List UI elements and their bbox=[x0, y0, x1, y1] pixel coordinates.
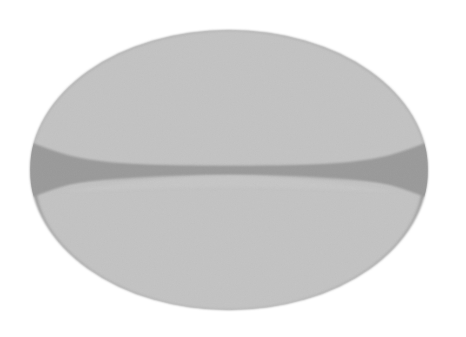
ellipse-figure-svg: Grayscale ellipse with bilobed cleft bbox=[0, 0, 466, 337]
figure-canvas: Grayscale ellipse with bilobed cleft bbox=[0, 0, 466, 337]
